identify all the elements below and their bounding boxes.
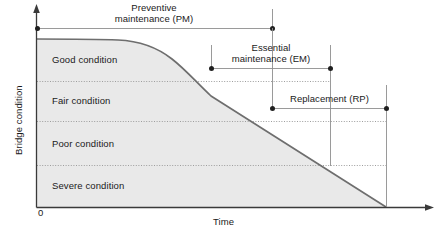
- band-label-fair: Fair condition: [52, 96, 110, 107]
- x-axis-arrowhead: [425, 204, 434, 211]
- x-axis-label: Time: [213, 217, 234, 228]
- em-start-marker: [209, 66, 214, 71]
- annotation-label-em-line2: maintenance (EM): [223, 54, 319, 65]
- band-label-good: Good condition: [52, 55, 117, 66]
- y-axis-arrowhead: [33, 4, 40, 13]
- annotation-label-rp-line1: Replacement (RP): [281, 94, 378, 105]
- chart-canvas: [0, 0, 442, 232]
- em-end-marker: [328, 66, 333, 71]
- rp-start-marker: [270, 106, 275, 111]
- origin-label: 0: [38, 208, 43, 219]
- band-label-poor: Poor condition: [52, 139, 114, 150]
- annotation-label-pm-line2: maintenance (PM): [106, 14, 202, 25]
- band-label-severe: Severe condition: [52, 181, 124, 192]
- pm-start-marker: [35, 26, 40, 31]
- bridge-condition-chart: Bridge condition Time 0 Good condition F…: [0, 0, 442, 232]
- y-axis-label: Bridge condition: [14, 85, 25, 155]
- rp-end-marker: [384, 106, 389, 111]
